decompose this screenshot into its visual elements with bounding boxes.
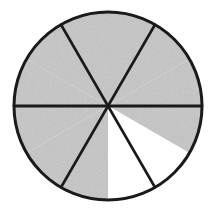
- fraction-circle-figure: Circle divided into six equal sectors: [0, 0, 214, 209]
- fraction-circle-diagram: Circle divided into six equal sectors: [0, 0, 214, 209]
